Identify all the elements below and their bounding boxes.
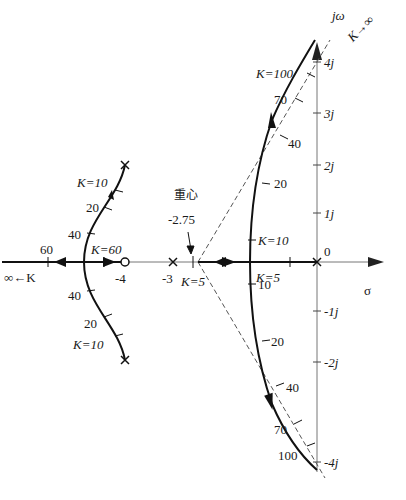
right-upper-70: 70 xyxy=(274,92,287,107)
right-lower-10: 10 xyxy=(258,277,271,292)
left-lower-40: 40 xyxy=(68,288,81,303)
svg-text:4j: 4j xyxy=(324,55,335,70)
root-locus-diagram: jω σ 0 K→∞ 4j 3j 2j 1j -1j -2j -4j -4 -3… xyxy=(0,0,406,500)
right-lower-20: 20 xyxy=(271,334,284,349)
centroid-value: -2.75 xyxy=(168,212,195,227)
right-lower-70: 70 xyxy=(274,422,287,437)
imag-axis-label: jω xyxy=(330,8,345,23)
left-upper-k10: K=10 xyxy=(76,175,108,190)
right-upper-20: 20 xyxy=(274,176,287,191)
right-upper-k10: K=10 xyxy=(257,233,289,248)
svg-text:3j: 3j xyxy=(323,106,335,121)
right-lower-40: 40 xyxy=(286,380,299,395)
right-locus xyxy=(198,40,317,470)
right-upper-40: 40 xyxy=(288,136,301,151)
left-realaxis-gain-k60: K=60 xyxy=(90,242,122,257)
asymptotes xyxy=(198,40,330,478)
left-upper-40: 40 xyxy=(68,227,81,242)
zero-icon xyxy=(121,258,129,266)
svg-text:-4j: -4j xyxy=(324,455,339,470)
svg-text:-1j: -1j xyxy=(324,304,339,319)
origin-label: 0 xyxy=(324,244,331,259)
svg-text:-2j: -2j xyxy=(324,355,339,370)
right-lower-100: 100 xyxy=(278,448,298,463)
svg-text:2j: 2j xyxy=(324,158,335,173)
centroid-marker xyxy=(187,232,194,268)
left-lower-20: 20 xyxy=(84,316,97,331)
imaginary-axis xyxy=(312,42,322,472)
real-axis-label: σ xyxy=(364,283,371,298)
left-lower-k10: K=10 xyxy=(72,337,104,352)
centroid-label: 重心 xyxy=(174,188,198,202)
right-upper-k100: K=100 xyxy=(255,66,293,81)
real-tick-minus3: -3 xyxy=(162,271,173,286)
asymptote-label: K→∞ xyxy=(344,12,377,45)
svg-text:1j: 1j xyxy=(324,206,335,221)
centroid-k5: K=5 xyxy=(180,274,205,289)
left-realaxis-gain: 60 xyxy=(40,242,53,257)
infinity-k-label: ∞←K xyxy=(4,270,36,285)
poles xyxy=(121,36,321,364)
real-tick-minus4: -4 xyxy=(115,271,126,286)
right-gain-ticks xyxy=(248,73,315,446)
left-upper-20: 20 xyxy=(86,200,99,215)
